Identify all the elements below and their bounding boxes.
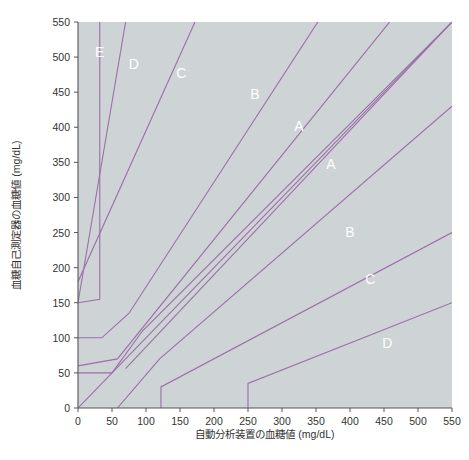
y-tick-label: 100 (52, 332, 70, 344)
zone-label-C: C (365, 271, 375, 287)
y-tick-label: 250 (52, 227, 70, 239)
y-tick-label: 500 (52, 51, 70, 63)
y-tick-label: 450 (52, 86, 70, 98)
zone-label-E: E (95, 44, 104, 60)
zone-label-D: D (382, 335, 392, 351)
y-tick-label: 200 (52, 262, 70, 274)
zone-label-A: A (294, 118, 304, 134)
x-tick-label: 550 (443, 415, 461, 427)
x-tick-label: 450 (375, 415, 393, 427)
y-tick-label: 350 (52, 156, 70, 168)
x-tick-label: 250 (239, 415, 257, 427)
y-tick-label: 400 (52, 121, 70, 133)
y-tick-label: 150 (52, 297, 70, 309)
y-tick-label: 550 (52, 16, 70, 28)
x-tick-label: 400 (341, 415, 359, 427)
y-tick-label: 50 (58, 367, 70, 379)
chart-canvas: 050100150200250300350400450500550 050100… (0, 0, 469, 460)
x-tick-label: 350 (307, 415, 325, 427)
x-tick-label: 100 (137, 415, 155, 427)
zone-label-D: D (129, 56, 139, 72)
x-tick-label: 500 (409, 415, 427, 427)
zone-label-B: B (345, 224, 354, 240)
y-tick-label: 300 (52, 191, 70, 203)
y-tick-label: 0 (64, 402, 70, 414)
zone-label-C: C (176, 65, 186, 81)
zone-label-A: A (326, 156, 336, 172)
x-axis-title: 自動分析装置の血糖値 (mg/dL) (195, 428, 334, 440)
clarke-error-grid-figure: 050100150200250300350400450500550 050100… (0, 0, 469, 460)
y-axis-title: 血糖自己測定器の血糖値 (mg/dL) (10, 140, 22, 289)
x-tick-label: 200 (205, 415, 223, 427)
x-tick-label: 300 (273, 415, 291, 427)
x-tick-label: 50 (106, 415, 118, 427)
x-tick-label: 150 (171, 415, 189, 427)
x-tick-label: 0 (75, 415, 81, 427)
zone-label-B: B (250, 86, 259, 102)
